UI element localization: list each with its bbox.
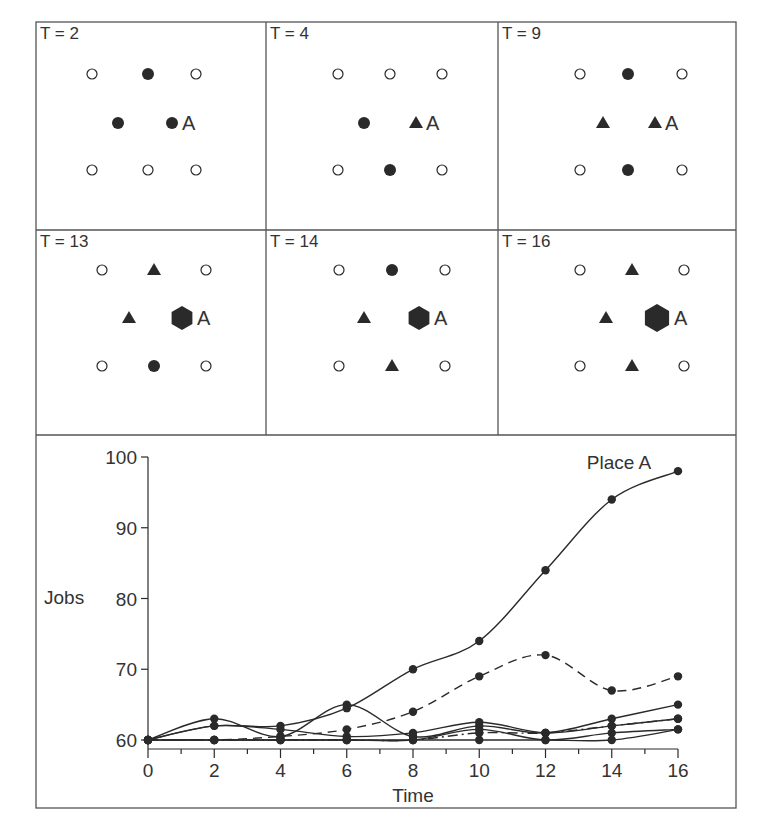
place-a-annotation: Place A — [587, 452, 652, 473]
x-tick-label: 10 — [469, 760, 490, 781]
open-circle-marker — [679, 361, 689, 371]
open-circle-marker — [334, 361, 344, 371]
panel-time-label: T = 13 — [40, 232, 88, 251]
open-circle-marker — [333, 69, 343, 79]
data-point — [475, 736, 483, 744]
filled-circle-marker — [142, 68, 154, 80]
open-circle-marker — [440, 361, 450, 371]
y-axis-title: Jobs — [44, 587, 84, 608]
y-tick-label: 100 — [105, 447, 137, 468]
open-circle-marker — [143, 165, 153, 175]
open-circle-marker — [575, 265, 585, 275]
panel-time-label: T = 14 — [270, 232, 318, 251]
figure-frame — [36, 22, 736, 808]
data-point — [608, 686, 616, 694]
place-a-label: A — [665, 112, 679, 134]
open-circle-marker — [87, 69, 97, 79]
filled-circle-marker — [166, 117, 178, 129]
open-circle-marker — [575, 165, 585, 175]
data-point — [674, 715, 682, 723]
data-point — [674, 467, 682, 475]
open-circle-marker — [677, 165, 687, 175]
filled-hexagon-marker — [172, 306, 193, 330]
filled-circle-marker — [148, 360, 160, 372]
filled-triangle-marker — [385, 359, 399, 371]
data-point — [210, 722, 218, 730]
data-point — [608, 736, 616, 744]
filled-triangle-marker — [596, 116, 610, 128]
panel-t=14: T = 14A — [270, 232, 450, 371]
open-circle-marker — [97, 265, 107, 275]
open-circle-marker — [440, 265, 450, 275]
filled-triangle-marker — [599, 311, 613, 323]
open-circle-marker — [437, 165, 447, 175]
open-circle-marker — [679, 265, 689, 275]
panel-t=2: T = 2A — [40, 24, 201, 175]
figure: T = 2AT = 4AT = 9AT = 13AT = 14AT = 16A … — [0, 0, 760, 837]
place-a-label: A — [434, 307, 448, 329]
filled-triangle-marker — [625, 359, 639, 371]
data-point — [475, 672, 483, 680]
filled-hexagon-marker — [409, 306, 430, 330]
data-point — [210, 736, 218, 744]
series-line — [148, 471, 678, 740]
open-circle-marker — [437, 69, 447, 79]
series-place-a — [144, 467, 682, 744]
data-point — [343, 700, 351, 708]
filled-hexagon-marker — [645, 304, 669, 332]
panel-t=9: T = 9A — [502, 24, 687, 176]
data-point — [409, 736, 417, 744]
panel-t=16: T = 16A — [502, 232, 689, 371]
jobs-line-chart: 607080901000246810121416 Jobs Time Place… — [44, 447, 689, 806]
open-circle-marker — [334, 265, 344, 275]
data-point — [475, 725, 483, 733]
x-tick-label: 14 — [601, 760, 623, 781]
spatial-panels: T = 2AT = 4AT = 9AT = 13AT = 14AT = 16A — [40, 24, 689, 372]
x-tick-label: 12 — [535, 760, 556, 781]
filled-circle-marker — [622, 68, 634, 80]
filled-triangle-marker — [122, 311, 136, 323]
chart-series — [144, 467, 682, 744]
filled-circle-marker — [112, 117, 124, 129]
data-point — [475, 637, 483, 645]
open-circle-marker — [333, 165, 343, 175]
filled-triangle-marker — [648, 116, 662, 128]
filled-circle-marker — [386, 264, 398, 276]
place-a-label: A — [426, 112, 440, 134]
open-circle-marker — [201, 361, 211, 371]
open-circle-marker — [677, 69, 687, 79]
filled-circle-marker — [384, 164, 396, 176]
open-circle-marker — [201, 265, 211, 275]
data-point — [343, 736, 351, 744]
open-circle-marker — [575, 69, 585, 79]
filled-triangle-marker — [409, 116, 423, 128]
data-point — [409, 708, 417, 716]
place-a-label: A — [197, 307, 211, 329]
y-tick-label: 90 — [116, 518, 137, 539]
panel-time-label: T = 4 — [270, 24, 309, 43]
data-point — [674, 725, 682, 733]
panel-time-label: T = 16 — [502, 232, 550, 251]
y-tick-label: 70 — [116, 659, 137, 680]
data-point — [541, 736, 549, 744]
filled-triangle-marker — [357, 311, 371, 323]
data-point — [276, 725, 284, 733]
open-circle-marker — [191, 69, 201, 79]
panel-time-label: T = 9 — [502, 24, 541, 43]
open-circle-marker — [87, 165, 97, 175]
filled-circle-marker — [358, 117, 370, 129]
x-tick-label: 6 — [341, 760, 352, 781]
x-axis-title: Time — [392, 785, 434, 806]
x-tick-label: 2 — [209, 760, 220, 781]
place-a-label: A — [182, 112, 196, 134]
y-tick-label: 60 — [116, 730, 137, 751]
x-tick-label: 16 — [667, 760, 688, 781]
data-point — [541, 566, 549, 574]
data-point — [608, 495, 616, 503]
data-point — [276, 736, 284, 744]
open-circle-marker — [575, 361, 585, 371]
data-point — [674, 700, 682, 708]
panel-t=4: T = 4A — [270, 24, 447, 176]
filled-triangle-marker — [625, 263, 639, 275]
open-circle-marker — [191, 165, 201, 175]
